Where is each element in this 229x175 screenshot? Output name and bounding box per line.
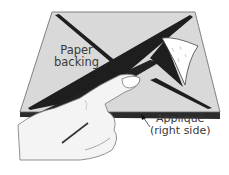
label-paper-backing-line2: backing (54, 56, 99, 68)
label-applique-line1: Appliqué (150, 113, 210, 125)
label-paper-backing: Paper backing (54, 44, 99, 68)
illustration-graphic (0, 0, 229, 175)
label-applique: Appliqué (right side) (150, 113, 210, 136)
label-applique-line2: (right side) (150, 125, 210, 137)
applique-illustration: Paper backing Appliqué (right side) (0, 0, 229, 175)
